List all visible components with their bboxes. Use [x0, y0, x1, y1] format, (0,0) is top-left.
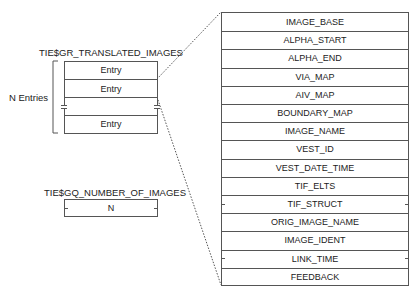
field-image-name[interactable]: IMAGE_NAME [222, 122, 408, 140]
field-orig-image-name[interactable]: ORIG_IMAGE_NAME [222, 213, 408, 231]
number-of-images-value: N [65, 200, 157, 216]
longword-tick [221, 204, 225, 205]
array-entry[interactable]: Entry [64, 61, 158, 79]
field-alpha-end[interactable]: ALPHA_END [222, 49, 408, 67]
row-divider [64, 97, 158, 98]
n-entries-bracket [53, 61, 58, 133]
field-alpha-start[interactable]: ALPHA_START [222, 31, 408, 49]
break-mark-right [154, 105, 160, 106]
field-feedback[interactable]: FEEDBACK [222, 268, 408, 286]
field-tif-struct[interactable]: TIF_STRUCT [222, 195, 408, 213]
n-entries-label: N Entries [9, 92, 48, 103]
translated-images-title: TIE$GR_TRANSLATED_IMAGES [39, 47, 183, 58]
break-mark-left [61, 105, 67, 106]
field-boundary-map[interactable]: BOUNDARY_MAP [222, 104, 408, 122]
entry-structure-table: IMAGE_BASE ALPHA_START ALPHA_END VIA_MAP… [221, 12, 409, 286]
array-entry[interactable]: Entry [64, 79, 158, 97]
field-vest-id[interactable]: VEST_ID [222, 140, 408, 158]
field-tif-elts[interactable]: TIF_ELTS [222, 177, 408, 195]
array-entry-last[interactable]: Entry [64, 115, 158, 133]
field-image-base[interactable]: IMAGE_BASE [222, 13, 408, 31]
field-aiv-map[interactable]: AIV_MAP [222, 86, 408, 104]
field-vest-date-time[interactable]: VEST_DATE_TIME [222, 159, 408, 177]
number-of-images-box: N [64, 199, 158, 217]
field-via-map[interactable]: VIA_MAP [222, 68, 408, 86]
number-of-images-title: TIE$GQ_NUMBER_OF_IMAGES [44, 187, 186, 198]
field-link-time[interactable]: LINK_TIME [222, 250, 408, 268]
field-image-ident[interactable]: IMAGE_IDENT [222, 231, 408, 249]
